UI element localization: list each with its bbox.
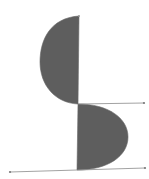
- bottom-line-left-point: [9, 171, 11, 173]
- middle-line: [78, 103, 144, 104]
- middle-line-end-point: [143, 102, 145, 104]
- s-shape-diagram: [0, 0, 149, 179]
- lower-half-ellipse: [77, 104, 128, 170]
- top-point: [78, 15, 80, 17]
- bottom-line-right-point: [144, 167, 146, 169]
- upper-half-ellipse: [40, 16, 79, 104]
